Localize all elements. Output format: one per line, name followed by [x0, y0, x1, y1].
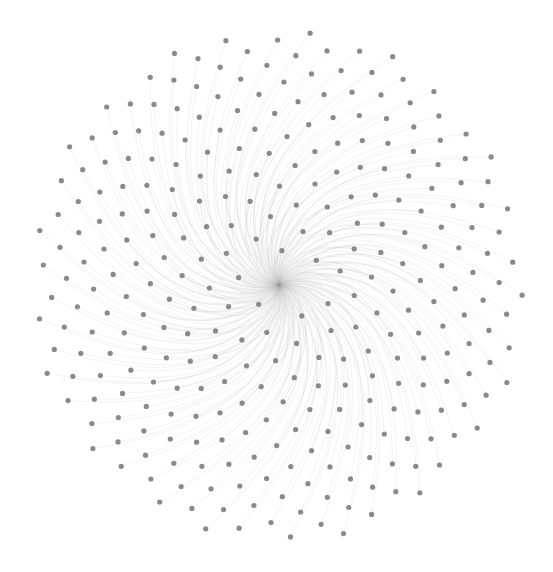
graph-node[interactable]	[451, 203, 456, 208]
graph-node[interactable]	[378, 250, 383, 255]
graph-node[interactable]	[170, 187, 175, 192]
graph-node[interactable]	[168, 437, 173, 442]
graph-node[interactable]	[380, 222, 385, 227]
graph-node[interactable]	[167, 297, 172, 302]
graph-node[interactable]	[463, 156, 468, 161]
graph-node[interactable]	[422, 244, 427, 249]
graph-node[interactable]	[382, 166, 387, 171]
graph-node[interactable]	[104, 104, 109, 109]
graph-node[interactable]	[223, 38, 228, 43]
graph-node[interactable]	[108, 351, 113, 356]
graph-node[interactable]	[421, 382, 426, 387]
graph-node[interactable]	[254, 237, 259, 242]
graph-node[interactable]	[294, 341, 299, 346]
graph-node[interactable]	[173, 162, 178, 167]
graph-node[interactable]	[312, 181, 317, 186]
graph-node[interactable]	[56, 212, 61, 217]
graph-node[interactable]	[141, 428, 146, 433]
graph-node[interactable]	[486, 328, 491, 333]
graph-node[interactable]	[124, 294, 129, 299]
graph-node[interactable]	[281, 79, 286, 84]
graph-node[interactable]	[367, 398, 372, 403]
graph-node[interactable]	[316, 355, 321, 360]
graph-node[interactable]	[299, 313, 304, 318]
graph-node[interactable]	[293, 53, 298, 58]
graph-node[interactable]	[171, 461, 176, 466]
graph-node[interactable]	[439, 225, 444, 230]
graph-node[interactable]	[348, 476, 353, 481]
graph-node[interactable]	[119, 464, 124, 469]
graph-node[interactable]	[453, 286, 458, 291]
graph-node[interactable]	[359, 422, 364, 427]
graph-node[interactable]	[203, 526, 208, 531]
graph-node[interactable]	[254, 172, 259, 177]
graph-node[interactable]	[218, 65, 223, 70]
graph-node[interactable]	[90, 135, 95, 140]
graph-node[interactable]	[485, 179, 490, 184]
graph-node[interactable]	[208, 486, 213, 491]
graph-node[interactable]	[189, 506, 194, 511]
graph-node[interactable]	[90, 446, 95, 451]
graph-node[interactable]	[277, 184, 282, 189]
graph-node[interactable]	[124, 237, 129, 242]
graph-node[interactable]	[70, 374, 75, 379]
graph-node[interactable]	[226, 304, 231, 309]
graph-node[interactable]	[369, 274, 374, 279]
graph-node[interactable]	[185, 331, 190, 336]
graph-node[interactable]	[385, 141, 390, 146]
graph-node[interactable]	[128, 101, 133, 106]
graph-node[interactable]	[405, 436, 410, 441]
graph-node[interactable]	[370, 485, 375, 490]
graph-node[interactable]	[456, 245, 461, 250]
graph-node[interactable]	[227, 169, 232, 174]
graph-node[interactable]	[327, 464, 332, 469]
graph-node[interactable]	[411, 124, 416, 129]
graph-node[interactable]	[273, 358, 278, 363]
graph-node[interactable]	[199, 464, 204, 469]
graph-node[interactable]	[105, 310, 110, 315]
graph-node[interactable]	[355, 221, 360, 226]
graph-node[interactable]	[275, 37, 280, 42]
graph-node[interactable]	[141, 312, 146, 317]
graph-node[interactable]	[268, 520, 273, 525]
graph-node[interactable]	[150, 233, 155, 238]
graph-node[interactable]	[237, 526, 242, 531]
graph-node[interactable]	[259, 384, 264, 389]
graph-node[interactable]	[431, 299, 436, 304]
graph-node[interactable]	[92, 397, 97, 402]
graph-node[interactable]	[445, 350, 450, 355]
graph-node[interactable]	[145, 209, 150, 214]
graph-node[interactable]	[352, 246, 357, 251]
graph-node[interactable]	[284, 134, 289, 139]
graph-node[interactable]	[306, 122, 311, 127]
graph-node[interactable]	[181, 235, 186, 240]
graph-node[interactable]	[390, 54, 395, 59]
graph-node[interactable]	[45, 371, 50, 376]
graph-node[interactable]	[459, 180, 464, 185]
graph-node[interactable]	[309, 71, 314, 76]
graph-node[interactable]	[325, 495, 330, 500]
graph-node[interactable]	[57, 245, 62, 250]
graph-node[interactable]	[148, 476, 153, 481]
graph-node[interactable]	[497, 229, 502, 234]
graph-node[interactable]	[274, 443, 279, 448]
graph-node[interactable]	[374, 310, 379, 315]
graph-node[interactable]	[417, 490, 422, 495]
graph-node[interactable]	[357, 113, 362, 118]
graph-node[interactable]	[101, 246, 106, 251]
graph-node[interactable]	[360, 138, 365, 143]
graph-node[interactable]	[78, 351, 83, 356]
graph-node[interactable]	[172, 212, 177, 217]
graph-node[interactable]	[325, 301, 330, 306]
graph-node[interactable]	[175, 106, 180, 111]
graph-node[interactable]	[89, 421, 94, 426]
graph-node[interactable]	[215, 94, 220, 99]
graph-node[interactable]	[213, 354, 218, 359]
graph-node[interactable]	[431, 89, 436, 94]
graph-node[interactable]	[469, 225, 474, 230]
graph-node[interactable]	[76, 230, 81, 235]
graph-node[interactable]	[148, 281, 153, 286]
graph-node[interactable]	[197, 199, 202, 204]
graph-node[interactable]	[325, 429, 330, 434]
graph-node[interactable]	[267, 151, 272, 156]
